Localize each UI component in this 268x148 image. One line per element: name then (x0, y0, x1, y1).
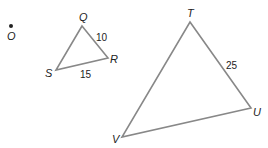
side-qr-length: 10 (96, 32, 108, 43)
label-o: O (7, 30, 16, 42)
label-q: Q (79, 11, 88, 23)
side-sr-length: 15 (80, 69, 92, 80)
label-r: R (110, 53, 118, 65)
label-v: V (112, 133, 121, 145)
label-u: U (253, 106, 261, 118)
triangle-tuv (122, 22, 251, 137)
point-o-dot (9, 24, 13, 28)
label-t: T (187, 7, 195, 19)
label-s: S (45, 67, 53, 79)
diagram-canvas: O Q R S 10 15 T U V 25 (0, 0, 268, 148)
side-tu-length: 25 (226, 60, 238, 71)
